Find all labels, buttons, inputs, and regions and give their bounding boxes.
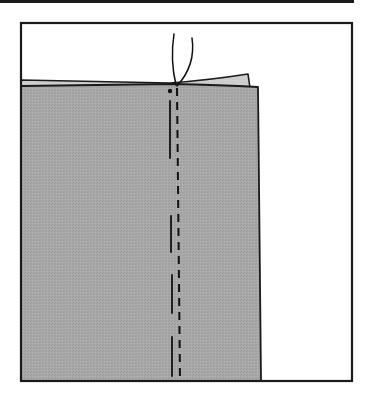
sewing-diagram bbox=[0, 0, 367, 401]
fabric-top-layer bbox=[21, 84, 261, 381]
top-rule bbox=[0, 0, 354, 3]
thread-icon bbox=[172, 34, 192, 86]
marker-dot bbox=[168, 89, 172, 93]
